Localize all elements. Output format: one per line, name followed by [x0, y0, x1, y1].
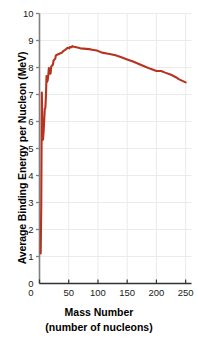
x-tick-label: 100 — [90, 287, 106, 298]
y-tick-label: 2 — [28, 224, 33, 235]
binding-energy-curve — [41, 46, 186, 253]
y-tick-label: 4 — [28, 170, 33, 181]
x-tick-label: 250 — [178, 287, 194, 298]
x-tick-label: 0 — [28, 287, 33, 298]
binding-energy-chart: 012345678910050100150200250 Average Bind… — [0, 0, 198, 347]
y-tick-label: 8 — [28, 62, 33, 73]
x-tick-label: 150 — [119, 287, 135, 298]
y-tick-label: 10 — [23, 8, 34, 19]
data-series-line — [41, 46, 186, 253]
x-tick-label: 50 — [63, 287, 74, 298]
y-tick-label: 6 — [28, 116, 33, 127]
y-tick-label: 5 — [28, 143, 33, 154]
chart-canvas: 012345678910050100150200250 — [0, 0, 198, 347]
y-tick-label: 7 — [28, 89, 33, 100]
gridlines — [40, 14, 192, 284]
y-tick-label: 3 — [28, 197, 33, 208]
x-tick-label: 200 — [148, 287, 164, 298]
y-tick-label: 9 — [28, 35, 33, 46]
y-tick-label: 1 — [28, 251, 33, 262]
tick-labels: 012345678910050100150200250 — [23, 8, 194, 298]
